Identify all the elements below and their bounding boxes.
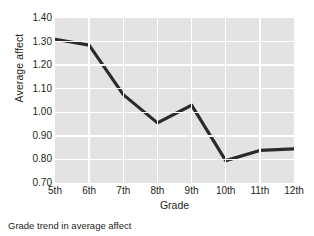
figure: Average affect 0.700.800.901.001.101.201…: [0, 0, 314, 236]
x-axis-title: Grade: [55, 199, 294, 211]
gridline-vertical: [259, 18, 261, 183]
gridline-vertical: [191, 18, 193, 183]
figure-caption: Grade trend in average affect: [8, 220, 131, 231]
plot-area: [55, 18, 294, 183]
gridline-vertical: [123, 18, 125, 183]
y-axis-tick-label: 1.00: [22, 107, 52, 117]
x-axis-tick-label: 12th: [274, 185, 314, 197]
y-axis-tick-label: 0.80: [22, 154, 52, 164]
line-chart: Average affect 0.700.800.901.001.101.201…: [0, 0, 314, 205]
gridline-vertical: [88, 18, 90, 183]
y-axis-tick-label: 1.30: [22, 37, 52, 47]
y-axis-tick-label: 1.20: [22, 60, 52, 70]
y-axis-tick-label: 1.40: [22, 13, 52, 23]
y-axis-tick-label: 0.90: [22, 131, 52, 141]
y-axis-tick-label: 1.10: [22, 84, 52, 94]
gridline-vertical: [157, 18, 159, 183]
x-axis-tick-labels: 5th6th7th8th9th10th11th12th: [55, 185, 294, 199]
gridline-vertical: [225, 18, 227, 183]
y-axis-tick-labels: 0.700.800.901.001.101.201.301.40: [22, 0, 52, 205]
